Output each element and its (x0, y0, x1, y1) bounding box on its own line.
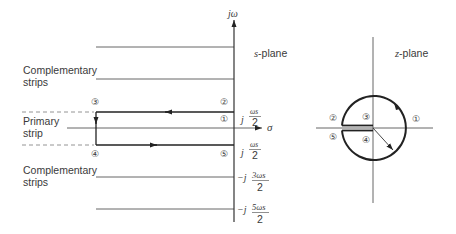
freq-label-ws-2-upper: j ωs 2 (239, 107, 261, 128)
svg-text:−j: −j (237, 172, 247, 183)
svg-text:j: j (239, 147, 244, 158)
circle-direction-arrow (394, 103, 400, 110)
complementary-strips-top-label-2: strips (23, 76, 48, 88)
z-contour-point-4: ④ (362, 135, 370, 145)
freq-label-ws-2-lower: j ωs 2 (239, 140, 261, 161)
svg-text:2: 2 (252, 116, 258, 128)
contour-point-4: ④ (91, 149, 99, 159)
svg-text:2: 2 (252, 149, 258, 161)
svg-text:2: 2 (257, 213, 263, 225)
z-contour-point-3: ③ (362, 112, 370, 122)
contour-point-3: ③ (91, 97, 99, 107)
svg-text:ωs: ωs (250, 107, 258, 116)
diagram-root: σ jω s-plane ③ ② ① ④ ⑤ j ωs 2 (0, 0, 456, 234)
svg-text:j: j (239, 114, 244, 125)
diagram-canvas: σ jω s-plane ③ ② ① ④ ⑤ j ωs 2 (0, 0, 456, 234)
complementary-strips-bottom-label-2: strips (23, 176, 48, 188)
s-plane: σ jω s-plane ③ ② ① ④ ⑤ j ωs 2 (22, 8, 287, 225)
s-plane-title: s-plane (254, 47, 287, 59)
primary-strip-label-2: strip (23, 127, 43, 139)
z-plane: z-plane ① ② ③ ④ ⑤ (316, 37, 433, 203)
svg-text:3ωs: 3ωs (251, 170, 266, 180)
complementary-strips-bottom-label-1: Complementary (23, 164, 98, 176)
z-contour-point-2: ② (329, 113, 337, 123)
svg-text:2: 2 (257, 181, 263, 193)
sigma-axis-label: σ (267, 121, 273, 133)
svg-text:ωs: ωs (250, 140, 258, 149)
freq-label-5ws-2: −j 5ωs 2 (237, 202, 269, 225)
z-contour-point-5: ⑤ (329, 132, 337, 142)
contour-point-1: ① (220, 114, 228, 124)
freq-label-3ws-2: −j 3ωs 2 (237, 170, 269, 193)
contour-point-2: ② (220, 97, 228, 107)
contour-point-5: ⑤ (220, 149, 228, 159)
primary-strip-contour (96, 112, 234, 145)
svg-text:−j: −j (237, 204, 247, 215)
primary-strip-label-1: Primary (23, 115, 60, 127)
jw-axis-label: jω (226, 8, 238, 19)
svg-text:5ωs: 5ωs (252, 202, 266, 212)
z-plane-title: z-plane (394, 47, 428, 59)
complementary-strips-top-label-1: Complementary (23, 64, 98, 76)
radius-arrow (373, 128, 393, 150)
z-contour-point-1: ① (412, 114, 420, 124)
